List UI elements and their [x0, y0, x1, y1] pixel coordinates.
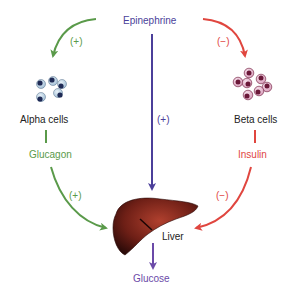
- label-glucose: Glucose: [133, 273, 170, 285]
- alpha-cells-icon: [37, 77, 67, 102]
- label-insulin: Insulin: [238, 149, 267, 161]
- label-epinephrine: Epinephrine: [123, 15, 176, 27]
- liver-icon: [113, 198, 198, 255]
- sign-glucagon-to-liver: (+): [69, 190, 82, 202]
- label-alpha-cells: Alpha cells: [20, 114, 68, 126]
- sign-epinephrine-to-beta: (−): [217, 36, 230, 48]
- label-beta-cells: Beta cells: [234, 114, 277, 126]
- sign-epinephrine-to-alpha: (+): [70, 36, 83, 48]
- label-liver: Liver: [162, 231, 184, 243]
- sign-insulin-to-liver: (−): [216, 190, 229, 202]
- diagram-canvas: [0, 0, 293, 295]
- sign-epinephrine-to-liver: (+): [157, 114, 170, 126]
- beta-cells-icon: [233, 68, 272, 100]
- label-glucagon: Glucagon: [29, 149, 72, 161]
